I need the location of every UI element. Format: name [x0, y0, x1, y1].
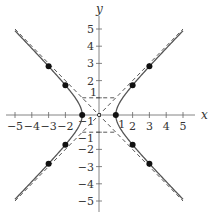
y-tick-label: 5	[87, 23, 94, 36]
data-point	[62, 142, 68, 148]
y-tick-label: −5	[78, 195, 94, 208]
x-tick-label: 1	[118, 118, 125, 131]
data-point	[46, 161, 52, 167]
data-point	[146, 161, 152, 167]
hyperbola-plot: −5−4−3−2−112345−5−4−3−2−112345 x y	[0, 0, 211, 216]
x-tick-label: −3	[40, 120, 56, 133]
data-point	[130, 82, 136, 88]
data-point	[146, 63, 152, 69]
data-point	[130, 142, 136, 148]
y-tick-label: 2	[87, 75, 94, 88]
x-axis-label: x	[201, 108, 208, 122]
data-point	[62, 82, 68, 88]
y-tick-label: −2	[78, 143, 94, 156]
x-tick-label: 2	[129, 120, 136, 133]
y-tick-label: 4	[87, 40, 94, 53]
x-tick-label: 4	[163, 120, 170, 133]
data-point	[113, 112, 119, 118]
y-tick-label: 1	[90, 86, 97, 99]
x-tick-label: 3	[146, 120, 153, 133]
data-point	[46, 63, 52, 69]
y-axis-label: y	[95, 2, 103, 16]
y-tick-label: −3	[78, 161, 94, 174]
y-tick-label: 3	[87, 57, 94, 70]
origin-marker	[97, 113, 100, 116]
x-tick-label: 5	[180, 120, 187, 133]
y-tick-label: −4	[78, 178, 94, 191]
x-tick-label: −4	[24, 120, 40, 133]
x-tick-label: −2	[57, 120, 73, 133]
data-point	[79, 112, 85, 118]
x-tick-label: −5	[7, 120, 23, 133]
